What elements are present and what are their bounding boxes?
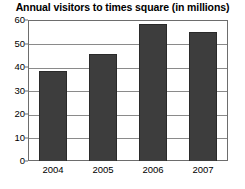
bars-layer <box>28 20 228 161</box>
bar-chart-figure: Annual visitors to times square (in mill… <box>0 0 245 189</box>
x-tick-label: 2006 <box>142 164 163 175</box>
x-axis: 2004200520062007 <box>28 164 228 180</box>
y-tick-label: 20 <box>0 109 25 119</box>
bar <box>139 24 167 161</box>
bar <box>189 32 217 161</box>
bar <box>89 54 117 161</box>
bar <box>39 71 67 161</box>
y-tick-label: 0 <box>0 156 25 166</box>
y-tick-label: 30 <box>0 86 25 96</box>
x-tick-label: 2005 <box>92 164 113 175</box>
x-tick-label: 2004 <box>42 164 63 175</box>
chart-title: Annual visitors to times square (in mill… <box>0 1 245 13</box>
y-tick-label: 60 <box>0 15 25 25</box>
y-tick-label: 50 <box>0 39 25 49</box>
x-tick-label: 2007 <box>192 164 213 175</box>
y-tick-label: 10 <box>0 133 25 143</box>
y-tick-label: 40 <box>0 62 25 72</box>
y-axis: 0102030405060 <box>0 20 25 161</box>
